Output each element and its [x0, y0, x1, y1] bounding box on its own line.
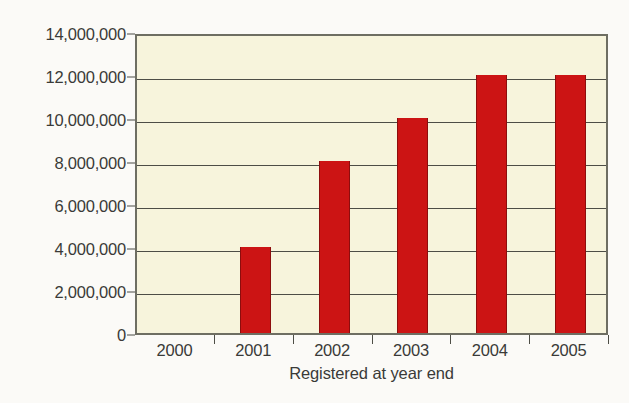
bar-2001 [240, 247, 271, 333]
x-axis-tick-label-2004: 2004 [472, 341, 508, 360]
gridline [137, 251, 606, 252]
bar-2002 [319, 161, 350, 333]
y-axis-tick [127, 206, 135, 207]
bar-2005 [555, 75, 586, 333]
x-axis-tick-label-2005: 2005 [551, 341, 587, 360]
y-axis-tick [127, 292, 135, 293]
x-axis-tick-label-2003: 2003 [393, 341, 429, 360]
plot-area [135, 34, 608, 335]
y-axis-tick-label: 0 [117, 326, 126, 345]
y-axis-tick [127, 77, 135, 78]
bar-chart-figure: 02,000,0004,000,0006,000,0008,000,00010,… [0, 0, 629, 403]
gridline [137, 208, 606, 209]
y-axis-tick-label: 8,000,000 [54, 154, 126, 173]
bar-2003 [397, 118, 428, 333]
x-axis-tick [608, 335, 609, 344]
y-axis-tick-label: 12,000,000 [45, 68, 126, 87]
y-axis-tick [127, 335, 135, 336]
y-axis-tick-label: 10,000,000 [45, 111, 126, 130]
y-axis-tick-label: 6,000,000 [54, 197, 126, 216]
x-axis-tick-label-2002: 2002 [314, 341, 350, 360]
x-axis-caption: Registered at year end [135, 364, 608, 383]
y-axis-tick [127, 249, 135, 250]
x-axis-tick-label-2000: 2000 [156, 341, 192, 360]
x-axis-labels: 200020012002200320042005 [135, 341, 608, 365]
gridline [137, 122, 606, 123]
y-axis-tick-label: 14,000,000 [45, 25, 126, 44]
y-axis-tick [127, 34, 135, 35]
y-axis: 02,000,0004,000,0006,000,0008,000,00010,… [0, 34, 126, 335]
y-axis-tick-label: 4,000,000 [54, 240, 126, 259]
y-axis-tick [127, 163, 135, 164]
x-axis-tick-label-2001: 2001 [235, 341, 271, 360]
y-axis-tick [127, 120, 135, 121]
gridline [137, 294, 606, 295]
bar-2004 [476, 75, 507, 333]
y-axis-tick-label: 2,000,000 [54, 283, 126, 302]
gridline [137, 79, 606, 80]
gridline [137, 165, 606, 166]
